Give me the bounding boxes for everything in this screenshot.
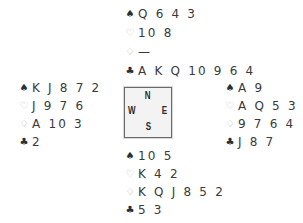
north-spades: Q 6 4 3: [138, 5, 197, 23]
south-clubs: 5 3: [138, 201, 164, 219]
compass-west: W: [128, 105, 136, 116]
club-icon: ♣: [225, 133, 235, 151]
diamond-icon: ♢: [125, 43, 135, 61]
north-hearts: 10 8: [138, 24, 174, 42]
heart-icon: ♡: [125, 165, 135, 183]
west-diamonds: A 10 3: [32, 115, 84, 133]
compass-south: S: [146, 121, 151, 132]
spade-icon: ♠: [19, 79, 29, 97]
west-spades: K J 8 7 2: [32, 79, 101, 97]
diamond-icon: ♢: [225, 115, 235, 133]
spade-icon: ♠: [125, 147, 135, 165]
east-hearts: A Q 5 3: [238, 97, 298, 115]
spade-icon: ♠: [125, 5, 135, 23]
spade-icon: ♠: [225, 79, 235, 97]
south-spades: 10 5: [138, 147, 174, 165]
west-clubs: 2: [32, 133, 42, 151]
south-diamonds: K Q J 8 5 2: [138, 183, 225, 201]
compass-box: N W E S: [124, 87, 172, 138]
south-hearts: K 4 2: [138, 165, 180, 183]
compass-north: N: [145, 90, 151, 101]
club-icon: ♣: [19, 133, 29, 151]
club-icon: ♣: [125, 201, 135, 219]
north-diamonds: —: [138, 43, 152, 61]
west-hearts: J 9 7 6: [32, 97, 85, 115]
diamond-icon: ♢: [125, 183, 135, 201]
east-diamonds: 9 7 6 4: [238, 115, 295, 133]
diamond-icon: ♢: [19, 115, 29, 133]
heart-icon: ♡: [19, 97, 29, 115]
east-clubs: J 8 7: [238, 133, 275, 151]
east-spades: A 9: [238, 79, 264, 97]
north-clubs: A K Q 10 9 6 4: [138, 62, 255, 80]
compass-east: E: [162, 105, 167, 116]
club-icon: ♣: [125, 62, 135, 80]
heart-icon: ♡: [225, 97, 235, 115]
heart-icon: ♡: [125, 24, 135, 42]
